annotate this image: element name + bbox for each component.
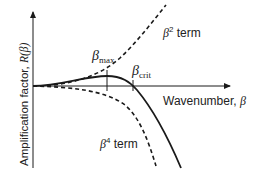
beta-max-label: βmax bbox=[91, 48, 115, 65]
beta4-term-curve bbox=[33, 86, 156, 166]
y-axis-label: Amplification factor, R(β) bbox=[18, 43, 31, 166]
beta2-term-label: β2 term bbox=[162, 25, 201, 40]
beta-crit-label: βcrit bbox=[131, 63, 151, 80]
x-axis-label: Wavenumber, β bbox=[163, 94, 246, 108]
amplification-diagram: Amplification factor, R(β) Wavenumber, β… bbox=[0, 0, 259, 170]
beta4-term-label: β4 term bbox=[99, 136, 138, 151]
